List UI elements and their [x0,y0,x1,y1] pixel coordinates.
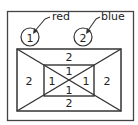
region-inner-right: 1 [83,75,90,88]
legend-item-red: 1 red [21,10,70,46]
region-outer-left: 2 [26,75,33,88]
legend-label-blue: blue [101,10,125,23]
region-outer-bottom: 2 [66,97,73,110]
region-diagram: 2 2 2 2 1 1 1 1 [17,49,121,111]
region-inner-top: 1 [66,65,73,78]
arrow-tail [96,17,100,19]
legend-number-2: 2 [80,32,87,45]
arrow-tail [45,17,50,19]
legend-label-red: red [52,10,70,23]
legend-number-1: 1 [27,32,34,45]
coloring-diagram: 1 red 2 blue 2 2 2 2 1 1 1 1 [0,0,138,125]
region-inner-left: 1 [49,75,56,88]
region-outer-right: 2 [104,75,111,88]
region-outer-top: 2 [66,51,73,64]
legend-item-blue: 2 blue [74,10,125,46]
region-inner-bottom: 1 [66,84,73,97]
